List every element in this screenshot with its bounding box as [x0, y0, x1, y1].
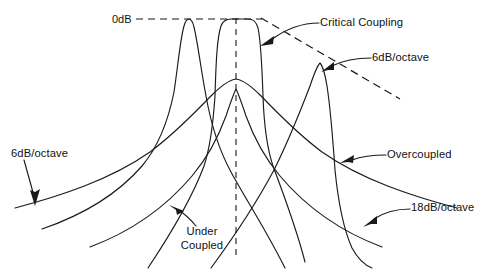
- curve-under-coupled-narrow-spike: [90, 89, 382, 247]
- eighteen-db-octave-label: 18dB/octave: [411, 201, 474, 213]
- overcoupled-arrowhead: [340, 155, 354, 163]
- overcoupled-label: Overcoupled: [387, 148, 452, 160]
- six-db-right-leader-line: [332, 58, 371, 66]
- zero-db-label: 0dB: [112, 13, 132, 25]
- coupling-response-diagram: 0dB Critical Coupling 6dB/octave 6dB/oct…: [0, 0, 482, 272]
- under-coupled-label-line1: Under: [187, 225, 218, 237]
- critical-coupling-arrowhead: [260, 36, 274, 46]
- six-db-left-leader-line: [24, 160, 34, 196]
- critical-coupling-label: Critical Coupling: [320, 16, 403, 28]
- curve-critical-coupling: [148, 19, 305, 268]
- under-coupled-leader-line: [180, 211, 196, 226]
- six-db-octave-right-label: 6dB/octave: [372, 51, 429, 63]
- six-db-octave-left-label: 6dB/octave: [11, 147, 68, 159]
- eighteen-db-arrowhead: [363, 216, 377, 227]
- figure-canvas: 0dB Critical Coupling 6dB/octave 6dB/oct…: [0, 0, 482, 272]
- curve-overcoupled-right-hump: [211, 63, 372, 268]
- under-coupled-label-line2: Coupled: [181, 239, 223, 251]
- curve-left-resonance-peak: [42, 19, 285, 268]
- eighteen-db-leader-line: [374, 209, 410, 219]
- overcoupled-leader-line: [352, 155, 386, 160]
